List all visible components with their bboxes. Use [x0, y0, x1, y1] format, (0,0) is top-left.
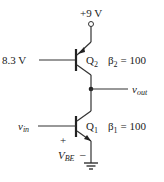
q1-label: Q1 — [86, 120, 98, 135]
q2-label: Q2 — [86, 54, 98, 69]
q1-beta: β1= 100 — [108, 120, 147, 135]
vbe-minus: – — [79, 148, 86, 160]
transistor-q2 — [39, 42, 91, 89]
supply-terminal — [89, 22, 94, 27]
vin-label: vin — [18, 120, 29, 134]
vbe-plus: + — [60, 134, 66, 146]
vbe-label: VBE — [58, 149, 75, 163]
q1-emitter-arrow-icon — [84, 135, 91, 141]
q2-base-voltage: 8.3 V — [2, 54, 26, 66]
circuit-diagram: +9 V 8.3 V Q2 β2= 100 vout vin Q1 β1= 10… — [0, 0, 164, 182]
supply-label: +9 V — [80, 7, 102, 19]
q2-collector — [77, 65, 91, 75]
q2-emitter-arrow-icon — [78, 47, 85, 54]
vout-label: vout — [132, 83, 148, 97]
ground-icon — [84, 163, 98, 169]
q2-beta: β2= 100 — [108, 54, 147, 69]
